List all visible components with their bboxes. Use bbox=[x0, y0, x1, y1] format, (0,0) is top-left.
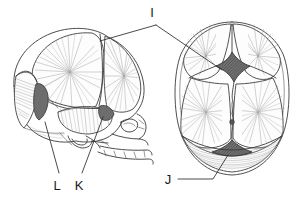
superior-frontal-bone-left bbox=[183, 24, 231, 80]
skull-figure-svg: I J K L bbox=[0, 0, 291, 201]
mastoid-fontanelle bbox=[34, 84, 49, 120]
lateral-view bbox=[13, 28, 153, 164]
leader-line-l bbox=[45, 122, 59, 173]
label-i: I bbox=[150, 5, 154, 20]
label-k: K bbox=[75, 178, 84, 193]
label-j: J bbox=[165, 172, 172, 187]
superior-view bbox=[175, 22, 289, 175]
leader-line-i bbox=[100, 25, 156, 41]
lateral-frontal-bone bbox=[104, 36, 141, 112]
label-l: L bbox=[53, 178, 60, 193]
figure-container: I J K L bbox=[0, 0, 291, 201]
